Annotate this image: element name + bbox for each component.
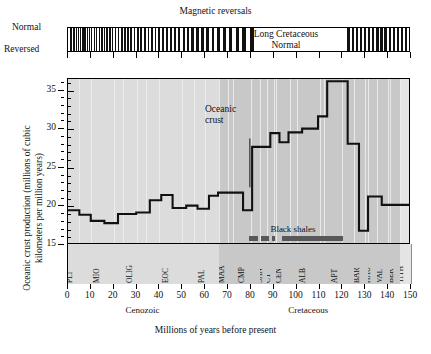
magnetic-bar-tick <box>181 52 182 58</box>
magnetic-reversed-stripe <box>118 28 120 51</box>
y-tick-mark <box>61 175 64 176</box>
stage-label: EOC <box>161 268 170 283</box>
x-tick-mark <box>136 284 137 289</box>
magnetic-reversed-stripe <box>76 28 77 51</box>
x-tick-label: 130 <box>352 290 376 300</box>
y-tick-mark <box>61 136 64 137</box>
magnetic-reversed-stripe <box>397 28 399 51</box>
stage-cell-bar: BAR <box>354 244 369 284</box>
magnetic-bar-tick <box>387 52 388 58</box>
magnetic-reversed-stripe <box>87 28 88 51</box>
x-tick-label: 120 <box>329 290 353 300</box>
black-shales-label: Black shales <box>238 224 348 234</box>
magnetic-bar-tick <box>410 52 411 58</box>
magnetic-reversed-stripe <box>96 28 97 51</box>
magnetic-reversed-stripe <box>174 28 176 51</box>
magnetic-reversed-stripe <box>137 28 139 51</box>
magnetic-reversed-stripe <box>183 28 185 51</box>
stage-label: OLIG <box>125 265 134 283</box>
black-shale-interval <box>249 236 258 241</box>
magnetic-bar-tick <box>136 52 137 58</box>
y-tick-label: 25 <box>47 161 57 171</box>
magnetic-reversed-stripe <box>352 28 354 51</box>
x-tick-mark <box>67 284 68 289</box>
x-tick-label: 70 <box>215 290 239 300</box>
era-label-cenozoic: Cenozoic <box>97 305 187 315</box>
magnetic-reversed-stripe <box>166 28 168 51</box>
y-tick-mark <box>61 113 64 114</box>
era-label-cretaceous: Cretaceous <box>263 305 353 315</box>
stage-label: SAN <box>260 268 263 283</box>
x-tick-mark <box>273 284 274 289</box>
magnetic-bar-tick <box>90 52 91 58</box>
y-tick-mark <box>58 205 64 206</box>
stage-label: VAL <box>377 269 384 283</box>
x-tick-label: 60 <box>192 290 216 300</box>
x-tick-mark <box>90 284 91 289</box>
magnetic-reversed-stripe <box>127 28 129 51</box>
stage-label: APT <box>330 269 339 283</box>
magnetic-reversed-stripe <box>80 28 81 51</box>
magnetic-reversed-stripe <box>401 28 403 51</box>
y-tick-mark <box>61 105 64 106</box>
magnetic-reversed-stripe <box>99 28 100 51</box>
y-tick-label: 20 <box>47 199 57 209</box>
x-tick-mark <box>227 284 228 289</box>
x-axis-tick-labels: 0102030405060708090100110120130140150 <box>0 290 431 304</box>
magnetic-reversed-stripe <box>106 28 107 51</box>
magnetic-reversed-stripe <box>151 28 153 51</box>
magnetic-reversed-stripe <box>196 28 199 51</box>
y-tick-mark <box>58 128 64 129</box>
magnetic-bar-tick <box>296 52 297 58</box>
black-shale-interval <box>261 236 269 241</box>
stage-cell-apt: APT <box>324 244 355 284</box>
magnetic-reversed-stripe <box>155 28 157 51</box>
x-tick-label: 40 <box>146 290 170 300</box>
polarity-label-normal: Normal <box>12 22 41 32</box>
magnetic-reversed-stripe <box>360 28 362 51</box>
magnetic-reversed-stripe <box>112 28 114 51</box>
stage-label: HAU <box>368 267 373 283</box>
stage-label: MAA <box>219 265 226 283</box>
x-axis-title: Millions of years before present <box>0 325 431 335</box>
oceanic-crust-annotation: Oceaniccrust <box>205 104 236 126</box>
stage-cell-tith: TITH <box>400 244 412 284</box>
y-tick-label: 35 <box>47 84 57 94</box>
magnetic-reversed-stripe <box>78 28 79 51</box>
magnetic-bar-tick <box>158 52 159 58</box>
stage-label: CMP <box>237 267 246 283</box>
x-tick-mark <box>341 284 342 289</box>
magnetic-reversed-stripe <box>148 28 150 51</box>
stage-cell-cen: CEN <box>276 244 291 284</box>
x-tick-mark <box>364 284 365 289</box>
y-tick-mark <box>61 144 64 145</box>
magnetic-reversed-stripe <box>217 28 220 51</box>
polarity-label-reversed: Reversed <box>4 44 39 54</box>
magnetic-reversed-stripe <box>206 28 209 51</box>
x-tick-label: 20 <box>101 290 125 300</box>
x-tick-label: 0 <box>55 290 79 300</box>
y-tick-mark <box>61 151 64 152</box>
magnetic-reversed-stripe <box>162 28 164 51</box>
magnetic-reversed-stripe <box>101 28 102 51</box>
geologic-stage-strip: PLIMIOOLIGEOCPALMAACMPSANCTCENALBAPTBARH… <box>67 244 410 284</box>
magnetic-reversed-stripe <box>212 28 215 51</box>
stage-label: BER <box>390 268 395 283</box>
x-tick-mark <box>113 284 114 289</box>
magnetic-bar-tick <box>319 52 320 58</box>
y-tick-mark <box>61 82 64 83</box>
stage-label: MIO <box>92 268 101 283</box>
x-tick-mark <box>181 284 182 289</box>
magnetic-reversed-stripe <box>178 28 180 51</box>
stage-label: PAL <box>197 270 206 283</box>
y-tick-mark <box>58 167 64 168</box>
magnetic-reversed-stripe <box>82 28 83 51</box>
magnetic-reversed-stripe <box>389 28 391 51</box>
magnetic-reversed-stripe <box>170 28 172 51</box>
stage-cell-pal: PAL <box>194 244 220 284</box>
y-tick-mark <box>61 236 64 237</box>
magnetic-reversed-stripe <box>134 28 136 51</box>
x-tick-label: 90 <box>261 290 285 300</box>
stage-cell-eoc: EOC <box>146 244 195 284</box>
x-tick-label: 150 <box>398 290 422 300</box>
